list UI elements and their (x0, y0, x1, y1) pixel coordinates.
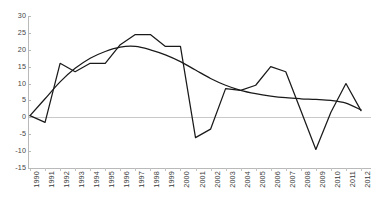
plot-area (0, 0, 373, 213)
y-tick-mark (28, 16, 31, 17)
line-chart: 302520151050-5-10-15 1990199119921993199… (0, 0, 373, 213)
y-tick-mark (28, 100, 31, 101)
y-tick-mark (28, 151, 31, 152)
y-tick-mark (28, 168, 31, 169)
y-tick-mark (28, 117, 31, 118)
series-trend-line (30, 46, 361, 115)
y-tick-mark (28, 67, 31, 68)
y-tick-mark (28, 33, 31, 34)
y-tick-mark (28, 134, 31, 135)
y-tick-mark (28, 50, 31, 51)
series-annual-line (30, 35, 361, 150)
y-tick-mark (28, 84, 31, 85)
